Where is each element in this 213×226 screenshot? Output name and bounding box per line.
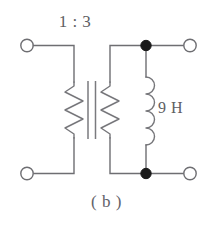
- terminal-right-bottom-icon: [184, 167, 196, 179]
- turns-ratio-label: 1 : 3: [0, 12, 150, 32]
- figure-caption: ( b ): [0, 192, 213, 212]
- wire-secondary-bottom: [110, 138, 146, 174]
- terminal-left-top-icon: [21, 39, 33, 51]
- inductor-coil: [146, 77, 155, 145]
- circuit-figure: 1 : 3 9 H ( b ): [0, 0, 213, 226]
- inductance-value-label: 9 H: [158, 99, 183, 117]
- junction-dot-top-icon: [141, 40, 151, 50]
- junction-dot-bottom-icon: [141, 168, 151, 178]
- terminal-right-top-icon: [184, 39, 196, 51]
- wire-left-bottom: [34, 138, 75, 174]
- wire-left-top: [34, 46, 75, 83]
- wire-secondary-top: [110, 46, 146, 83]
- transformer-secondary-winding: [101, 82, 119, 138]
- terminal-left-bottom-icon: [21, 167, 33, 179]
- transformer-primary-winding: [65, 82, 83, 138]
